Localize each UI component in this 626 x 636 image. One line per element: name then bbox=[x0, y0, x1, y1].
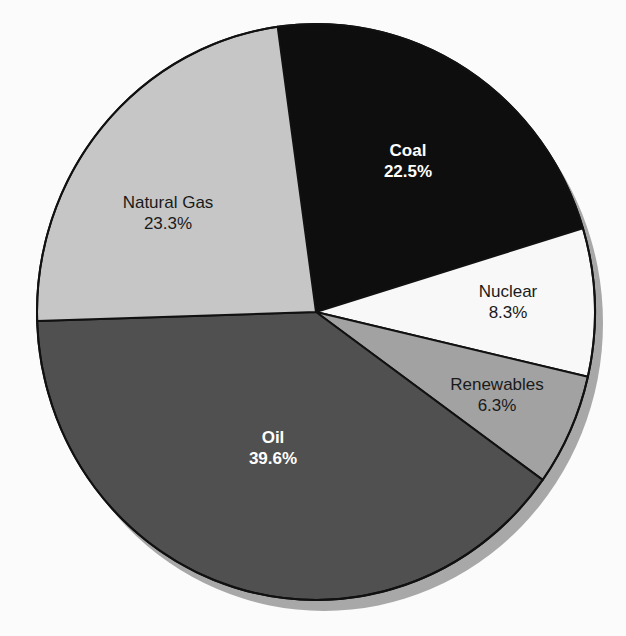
label-coal-name: Coal bbox=[384, 140, 432, 161]
label-renewables-pct: 6.3% bbox=[450, 395, 544, 416]
label-coal-pct: 22.5% bbox=[384, 161, 432, 182]
label-oil-name: Oil bbox=[249, 427, 297, 448]
label-nuclear: Nuclear 8.3% bbox=[479, 281, 538, 323]
label-natural-gas-name: Natural Gas bbox=[123, 192, 214, 213]
slice-natural-gas bbox=[37, 27, 316, 321]
label-nuclear-name: Nuclear bbox=[479, 281, 538, 302]
label-natural-gas: Natural Gas 23.3% bbox=[123, 192, 214, 234]
label-nuclear-pct: 8.3% bbox=[479, 302, 538, 323]
label-renewables: Renewables 6.3% bbox=[450, 374, 544, 416]
label-coal: Coal 22.5% bbox=[384, 140, 432, 182]
label-oil-pct: 39.6% bbox=[249, 448, 297, 469]
label-oil: Oil 39.6% bbox=[249, 427, 297, 469]
label-renewables-name: Renewables bbox=[450, 374, 544, 395]
label-natural-gas-pct: 23.3% bbox=[123, 213, 214, 234]
